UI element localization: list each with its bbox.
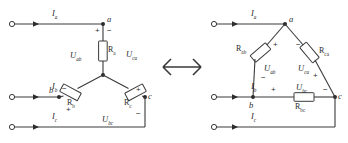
polarity-ab-plus-right: + xyxy=(273,41,278,49)
polarity-bc-plus-right: + xyxy=(271,86,276,94)
label-resistor-rca: Rca xyxy=(319,47,329,57)
polarity-bc-minus-left: − xyxy=(136,110,141,118)
label-current-ic-right: Ic xyxy=(251,112,256,123)
polarity-bc-minus-right: − xyxy=(323,86,328,94)
label-current-ib-right: Ib xyxy=(251,82,256,93)
wye-circuit-group xyxy=(9,21,147,130)
label-node-b-left: b xyxy=(49,86,53,95)
delta-circuit-group xyxy=(211,21,337,130)
polarity-a-minus-left: − xyxy=(107,27,112,35)
polarity-bc-plus-left: + xyxy=(66,106,71,114)
polarity-c-plus-left: + xyxy=(136,86,141,94)
delta-line-c xyxy=(211,124,335,130)
label-node-a-left: a xyxy=(107,15,111,24)
label-resistor-rbc: Rbc xyxy=(295,103,305,113)
polarity-ca-plus-right: + xyxy=(313,72,318,80)
wye-line-b xyxy=(9,94,59,100)
circuit-diagram: .wire{stroke:#3a3a3a;stroke-width:1.1;fi… xyxy=(0,0,348,143)
resistor-Rab-body xyxy=(250,43,271,63)
polarity-ab-bottom-minus-right: − xyxy=(261,74,266,82)
label-node-b-right: b xyxy=(249,101,253,110)
resistor-Ra-body xyxy=(99,41,108,61)
label-voltage-ubc-right: Ubc xyxy=(296,83,307,94)
polarity-b-minus-left: − xyxy=(62,85,67,93)
label-resistor-rab: Rab xyxy=(236,45,246,55)
label-resistor-rc: Rc xyxy=(124,99,132,109)
polarity-ab-minus-right: − xyxy=(296,41,301,49)
label-resistor-ra: Ra xyxy=(108,46,116,56)
delta-line-b xyxy=(211,94,253,100)
wye-line-c xyxy=(9,124,145,130)
resistor-Rca-body xyxy=(300,42,319,63)
polarity-a-plus-left: + xyxy=(95,27,100,35)
label-current-ic-left: Ic xyxy=(52,112,57,123)
label-node-c-left: c xyxy=(148,92,152,101)
wye-line-a xyxy=(9,21,103,27)
equivalence-arrow-icon xyxy=(163,59,201,75)
label-voltage-ubc-left: Ubc xyxy=(102,115,113,126)
delta-line-a xyxy=(211,21,285,27)
label-current-ia-right: Ia xyxy=(251,9,256,20)
label-current-ia-left: Ia xyxy=(52,9,57,20)
resistor-Rbc-body xyxy=(294,93,314,102)
label-node-c-right: c xyxy=(338,92,342,101)
label-voltage-uca-left: Uca xyxy=(126,50,137,61)
label-voltage-uab-left: Uab xyxy=(70,51,81,62)
label-node-a-right: a xyxy=(289,15,293,24)
label-voltage-uca-right: Uca xyxy=(298,64,309,75)
